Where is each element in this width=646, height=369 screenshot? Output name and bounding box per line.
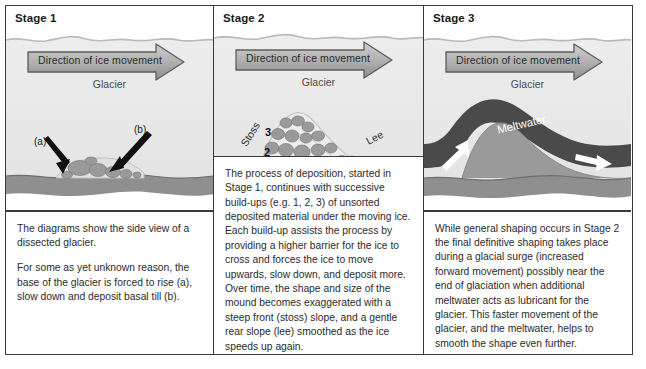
caption-paragraph: The process of deposition, started in St… xyxy=(225,167,412,354)
panel-stage-1: Stage 1 xyxy=(6,6,214,354)
caption-paragraph: For some as yet unknown reason, the base… xyxy=(17,261,202,304)
panel-title-stage-2: Stage 2 xyxy=(214,6,423,24)
diagram-svg-stage-2 xyxy=(214,24,423,156)
diagram-stage-1: Direction of ice movement Glacier (a) (b… xyxy=(6,26,213,210)
diagram-svg-stage-1 xyxy=(6,26,213,210)
stages-figure: Stage 1 xyxy=(5,5,633,355)
diagram-stage-2: Direction of ice movement Glacier Stoss … xyxy=(214,24,423,156)
panel-stage-2: Stage 2 xyxy=(214,6,424,354)
panel-stage-3: Stage 3 xyxy=(424,6,631,354)
glacier-surface-line xyxy=(424,37,631,42)
caption-paragraph: While general shaping occurs in Stage 2 … xyxy=(435,222,620,352)
glacier-surface-line xyxy=(214,35,423,40)
diagram-stage-3: Direction of ice movement Glacier Meltwa… xyxy=(424,26,631,210)
caption-stage-2: The process of deposition, started in St… xyxy=(214,157,423,354)
panel-title-stage-3: Stage 3 xyxy=(424,6,631,26)
diagram-svg-stage-3 xyxy=(424,26,631,210)
caption-stage-3: While general shaping occurs in Stage 2 … xyxy=(424,212,631,355)
caption-stage-1: The diagrams show the side view of a dis… xyxy=(6,212,213,355)
panel-title-stage-1: Stage 1 xyxy=(6,6,213,26)
glacier-surface-line xyxy=(6,37,213,42)
caption-paragraph: The diagrams show the side view of a dis… xyxy=(17,222,202,251)
